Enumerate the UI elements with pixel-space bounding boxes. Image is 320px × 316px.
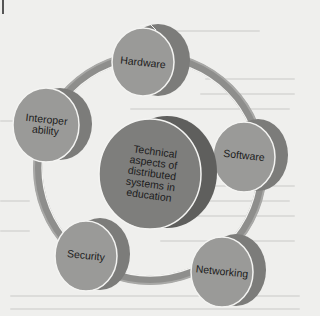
center-label: Technical aspects of distributed systems… <box>107 140 198 206</box>
